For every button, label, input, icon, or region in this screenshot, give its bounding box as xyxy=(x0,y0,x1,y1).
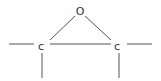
atom-carbon-right: c xyxy=(114,40,120,53)
atom-carbon-left: c xyxy=(38,40,44,53)
epoxide-diagram: O c c xyxy=(0,0,161,81)
atom-oxygen: O xyxy=(76,5,85,18)
bond-o-c2 xyxy=(85,16,111,40)
bond-o-c1 xyxy=(50,16,75,40)
